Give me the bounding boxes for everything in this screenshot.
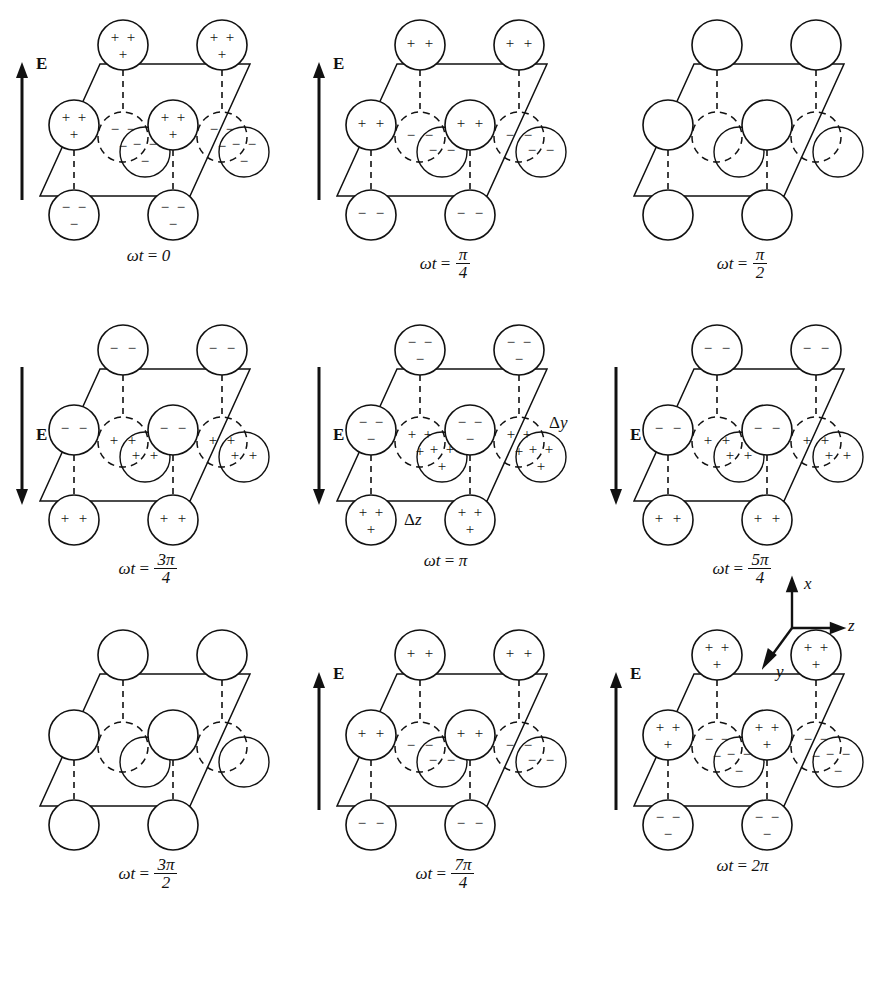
charge-symbol-solid: − (704, 340, 712, 356)
ion-circle (692, 20, 742, 70)
charge-symbol-bottom: − (78, 199, 86, 215)
e-field-arrow (313, 62, 325, 200)
ion-circle (692, 630, 742, 680)
charge-symbol-bottom: + (466, 521, 474, 537)
charge-symbol-offset: − (826, 746, 834, 762)
charge-symbol-dashed: − (804, 731, 812, 747)
charge-symbol-dashed: + (821, 432, 829, 448)
charge-symbol-dashed: − (407, 737, 415, 753)
charge-symbol-solid: + (705, 639, 713, 655)
charge-symbol-offset: + (430, 441, 438, 457)
x-axis-label: x (804, 574, 812, 594)
charge-symbol-offset: + (446, 441, 454, 457)
charge-symbol-bottom: − (656, 809, 664, 825)
ion-circle (98, 325, 148, 375)
charge-symbol-solid: + (111, 29, 119, 45)
charge-symbol-offset: + (825, 447, 833, 463)
charge-symbol-solid: − (227, 340, 235, 356)
panel-1: ++++++++++++−−−−−−−−−−−−−−−−−−Eωt = 0 (0, 0, 297, 305)
charge-symbol-bottom: − (457, 205, 465, 221)
charge-symbol-solid: + (218, 46, 226, 62)
charge-symbol-offset: + (744, 447, 752, 463)
charge-symbol-solid: + (457, 115, 465, 131)
panel-3: ωt = π2 (594, 0, 891, 305)
e-field-arrow (610, 367, 622, 505)
phase-value: 2π (751, 856, 768, 875)
phase-caption: ωt = π4 (297, 246, 594, 282)
ion-circle (49, 100, 99, 150)
charge-symbol-solid: + (210, 29, 218, 45)
charge-symbol-offset: + (726, 447, 734, 463)
charge-symbol-offset: + (132, 447, 140, 463)
charge-symbol-solid: + (771, 719, 779, 735)
charge-symbol-bottom: − (672, 809, 680, 825)
charge-symbol-offset: + (545, 441, 553, 457)
charge-symbol-bottom: + (673, 510, 681, 526)
charge-symbol-offset: − (232, 136, 240, 152)
charge-symbol-dashed: − (506, 127, 514, 143)
charge-symbol-offset: − (528, 752, 536, 768)
charge-symbol-bottom: + (375, 504, 383, 520)
charge-symbol-offset: − (546, 752, 554, 768)
charge-symbol-bottom: − (358, 815, 366, 831)
charge-symbol-solid: + (672, 719, 680, 735)
charge-symbol-offset: − (447, 142, 455, 158)
ion-circle (346, 100, 396, 150)
phase-caption: ωt = 0 (0, 246, 297, 266)
coordinate-triad: x z y (762, 566, 882, 686)
phase-fraction: 3π4 (154, 551, 177, 587)
y-axis-label: y (776, 662, 784, 682)
ion-circle (148, 190, 198, 240)
delta-y-label: Δy (549, 413, 567, 433)
charge-symbol-solid: + (177, 109, 185, 125)
charge-symbol-solid: + (721, 639, 729, 655)
charge-symbol-solid: + (169, 126, 177, 142)
charge-symbol-solid: + (78, 109, 86, 125)
ion-circle (692, 325, 742, 375)
phase-value: 0 (162, 246, 171, 265)
ion-circle (395, 630, 445, 680)
charge-symbol-solid: − (821, 340, 829, 356)
charge-symbol-bottom: + (474, 504, 482, 520)
dashed-ion-circle (395, 112, 445, 162)
charge-symbol-offset: − (735, 763, 743, 779)
charge-symbol-solid: + (457, 725, 465, 741)
ion-circle (395, 20, 445, 70)
charge-symbol-solid: − (61, 420, 69, 436)
charge-symbol-dashed: − (210, 121, 218, 137)
charge-symbol-offset: − (429, 752, 437, 768)
charge-symbol-solid: + (425, 35, 433, 51)
charge-symbol-offset: + (843, 447, 851, 463)
charge-symbol-offset: − (727, 746, 735, 762)
charge-symbol-dashed: + (408, 426, 416, 442)
charge-symbol-solid: + (713, 656, 721, 672)
charge-symbol-dashed: − (226, 121, 234, 137)
charge-symbol-solid: − (507, 334, 515, 350)
charge-symbol-bottom: + (61, 510, 69, 526)
charge-symbol-solid: − (375, 414, 383, 430)
charge-symbol-solid: + (127, 29, 135, 45)
phase-fraction: 7π4 (451, 856, 474, 892)
charge-symbol-solid: + (664, 736, 672, 752)
charge-symbol-offset: − (834, 763, 842, 779)
charge-symbol-solid: − (416, 351, 424, 367)
charge-symbol-dashed: − (705, 731, 713, 747)
x-axis-arrowhead (788, 579, 797, 591)
phase-caption: ωt = π (297, 551, 594, 571)
charge-symbol-solid: + (358, 725, 366, 741)
charge-symbol-solid: − (178, 420, 186, 436)
phase-fraction: π4 (456, 246, 471, 282)
dashed-ion-circle (98, 417, 148, 467)
ion-circle (98, 630, 148, 680)
charge-symbol-solid: − (128, 340, 136, 356)
y-axis-arrowhead (764, 650, 775, 666)
ion-circle (49, 405, 99, 455)
charge-symbol-solid: + (407, 645, 415, 661)
charge-symbol-dashed: − (425, 737, 433, 753)
e-field-arrow (610, 672, 622, 810)
charge-symbol-bottom: + (754, 510, 762, 526)
ion-circle (742, 495, 792, 545)
charge-symbol-dashed: + (416, 443, 424, 459)
charge-symbol-offset: + (249, 447, 257, 463)
charge-symbol-bottom: − (771, 809, 779, 825)
